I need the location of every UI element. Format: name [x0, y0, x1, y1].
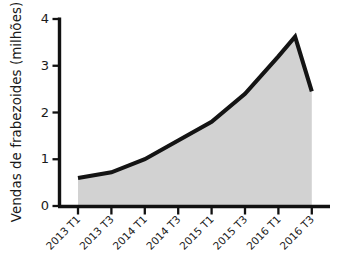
y-tick-labels: 01234	[41, 11, 49, 213]
x-tick-label: 2014 T3	[144, 213, 183, 252]
x-tick-label: 2016 T1	[244, 213, 283, 252]
y-axis	[53, 18, 60, 207]
x-tick-label: 2013 T1	[43, 213, 82, 252]
y-tick-label: 3	[41, 58, 49, 73]
chart-container: 01234 2013 T12013 T32014 T12014 T32015 T…	[0, 0, 344, 271]
area-fill-region	[78, 37, 312, 206]
y-tick-label: 4	[41, 11, 49, 26]
x-tick-label: 2013 T3	[77, 213, 116, 252]
x-tick-label: 2015 T3	[210, 213, 249, 252]
area-chart: 01234 2013 T12013 T32014 T12014 T32015 T…	[0, 0, 344, 271]
y-tick-label: 2	[41, 105, 49, 120]
x-tick-label: 2015 T1	[177, 213, 216, 252]
x-tick-labels: 2013 T12013 T32014 T12014 T32015 T12015 …	[43, 213, 316, 252]
x-tick-label: 2014 T1	[110, 213, 149, 252]
x-tick-label: 2016 T3	[277, 213, 316, 252]
y-axis-title: Vendas de frabezoides (milhões)	[8, 2, 24, 222]
y-tick-label: 0	[41, 198, 49, 213]
plot-area	[78, 37, 312, 206]
y-tick-label: 1	[41, 151, 49, 166]
x-axis	[58, 207, 330, 215]
